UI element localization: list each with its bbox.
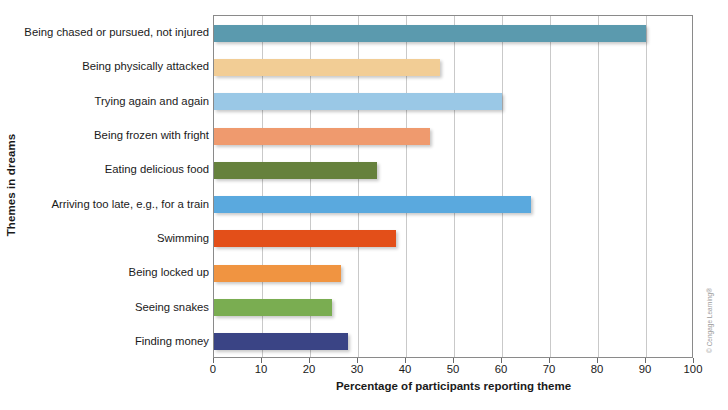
category-label: Arriving too late, e.g., for a train [24,198,209,210]
bar [214,196,531,213]
x-tick-label: 70 [529,363,569,375]
category-label: Eating delicious food [24,163,209,175]
category-label: Being locked up [24,266,209,278]
category-label: Finding money [24,335,209,347]
y-axis-title-text: Themes in dreams [5,134,17,237]
bar [214,25,646,42]
x-tick-label: 30 [337,363,377,375]
bar [214,230,396,247]
bar [214,299,332,316]
x-tick-label: 10 [241,363,281,375]
plot-area [213,15,693,358]
copyright-credit-text: © Cengage Learning® [706,288,713,353]
gridline [550,16,551,357]
category-label: Being physically attacked [24,60,209,72]
y-axis-title: Themes in dreams [0,0,22,370]
category-label: Being frozen with fright [24,129,209,141]
x-tick-label: 60 [481,363,521,375]
bar [214,59,440,76]
bar [214,265,341,282]
category-label: Swimming [24,232,209,244]
gridline [454,16,455,357]
x-tick-label: 50 [433,363,473,375]
x-tick-label: 20 [289,363,329,375]
chart-figure: Themes in dreams Being chased or pursued… [0,0,728,410]
x-tick-label: 40 [385,363,425,375]
bar [214,162,377,179]
x-tick-label: 0 [193,363,233,375]
x-tick-label: 80 [577,363,617,375]
x-axis-ticks: 0102030405060708090100 [213,358,694,378]
x-axis-title: Percentage of participants reporting the… [213,380,694,392]
bar [214,128,430,145]
gridline [646,16,647,357]
category-label: Being chased or pursued, not injured [24,26,209,38]
bar [214,333,348,350]
x-tick-label: 90 [625,363,665,375]
category-label-list: Being chased or pursued, not injuredBein… [24,15,209,358]
bar [214,93,502,110]
copyright-credit: © Cengage Learning® [700,260,718,380]
gridline [598,16,599,357]
category-label: Seeing snakes [24,301,209,313]
gridline [502,16,503,357]
category-label: Trying again and again [24,95,209,107]
